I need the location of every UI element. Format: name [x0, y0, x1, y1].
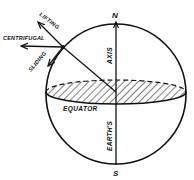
diagram-canvas: N S AXIS EARTH'S EQUATOR LIFTING CENTRIF… [0, 0, 194, 180]
equator-label: EQUATOR [63, 105, 98, 113]
north-label: N [112, 11, 118, 20]
sliding-arrow [48, 47, 63, 66]
axis-label: AXIS [106, 47, 113, 65]
earth-forces-diagram: N S AXIS EARTH'S EQUATOR LIFTING CENTRIF… [0, 0, 194, 180]
earths-label: EARTH'S [106, 120, 113, 151]
sliding-label: SLIDING [27, 50, 48, 73]
centrifugal-label: CENTRIFUGAL [3, 35, 45, 41]
centrifugal-arrow [21, 46, 63, 47]
lifting-label: LIFTING [38, 11, 61, 30]
south-label: S [113, 169, 119, 178]
